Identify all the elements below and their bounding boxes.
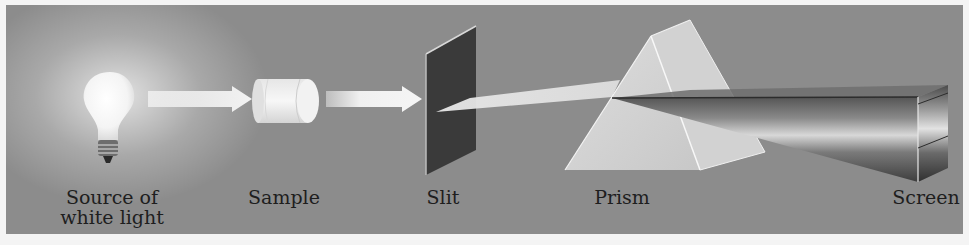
label-slit: Slit: [418, 187, 468, 207]
label-sample: Sample: [244, 187, 324, 207]
light-bulb-icon: [84, 72, 135, 163]
light-beam-arrow-1: [148, 86, 252, 112]
label-source: Source of white light: [52, 187, 172, 227]
screen-icon: [918, 85, 948, 182]
sample-cuvette-icon: [252, 79, 319, 123]
label-source-line2: white light: [52, 207, 172, 227]
label-source-line1: Source of: [52, 187, 172, 207]
light-beam-arrow-2: [326, 86, 422, 112]
label-screen: Screen: [886, 187, 966, 207]
label-prism: Prism: [582, 187, 662, 207]
